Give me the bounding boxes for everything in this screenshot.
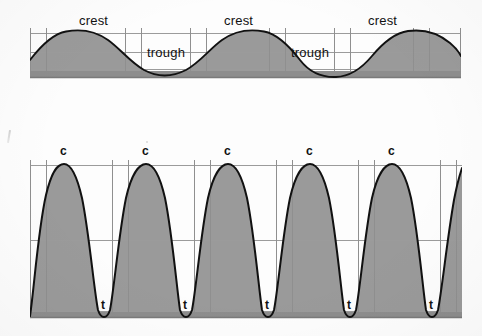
label-trough-2: trough <box>291 46 329 59</box>
label-crest-2: crest <box>224 14 253 27</box>
label-c-2: c <box>142 145 149 157</box>
label-c-5: c <box>388 145 395 157</box>
label-c-4: c <box>306 145 313 157</box>
bottom-wave-panel: c c c c c t t t t t <box>0 140 482 336</box>
label-crest-1: crest <box>79 14 108 27</box>
label-c-3: c <box>224 145 231 157</box>
top-wave-fill <box>30 30 461 78</box>
top-wave-panel: crest crest crest trough trough <box>0 0 482 120</box>
label-t-2: t <box>183 299 187 311</box>
label-t-5: t <box>429 299 433 311</box>
label-t-1: t <box>101 299 105 311</box>
label-crest-3: crest <box>368 14 397 27</box>
label-c-1: c <box>60 145 67 157</box>
bottom-wave-svg <box>0 140 482 336</box>
label-t-3: t <box>265 299 269 311</box>
label-t-4: t <box>347 299 351 311</box>
label-trough-1: trough <box>147 46 185 59</box>
